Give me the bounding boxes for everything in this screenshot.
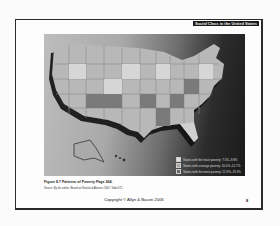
slide: Social Class in the United States (15, 19, 263, 210)
source-note: Source: By the author. Based on Statisti… (44, 187, 123, 190)
figure-caption: Figure 8.7 Patterns of Poverty Page 264. (44, 180, 113, 184)
legend-item-average-poverty: States with average poverty: 10.0%–12.7% (176, 163, 241, 168)
legend-swatch-icon (176, 163, 181, 168)
us-map-graphic (44, 34, 245, 176)
copyright-notice: Copyright © Allyn & Bacon 2006 (104, 197, 164, 202)
legend-item-most-poverty: States with the most poverty: 12.9%–19.3… (176, 169, 241, 174)
us-poverty-map: States with the least poverty: 7.5%–9.8%… (44, 34, 245, 176)
legend-swatch-icon (176, 157, 181, 162)
slide-header-title: Social Class in the United States (193, 21, 259, 26)
legend-item-least-poverty: States with the least poverty: 7.5%–9.8% (176, 157, 241, 162)
legend-swatch-icon (176, 169, 181, 174)
map-legend: States with the least poverty: 7.5%–9.8%… (176, 157, 241, 175)
page-number: 8 (246, 198, 248, 203)
